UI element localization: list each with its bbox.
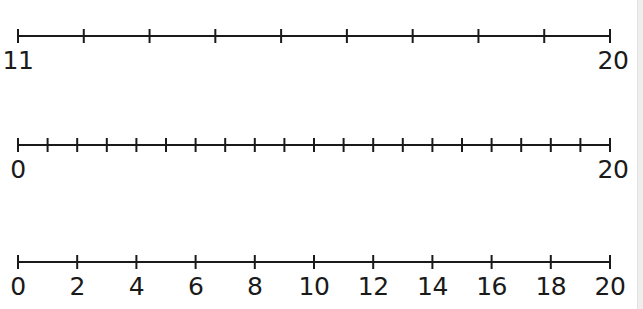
tick-label: 16 — [476, 274, 507, 299]
tick-label: 10 — [299, 274, 330, 299]
tick-label: 6 — [188, 274, 203, 299]
tick-label: 12 — [358, 274, 389, 299]
tick-label: 4 — [129, 274, 144, 299]
number-line-0-to-20-twos: 02468101214161820 — [0, 0, 643, 309]
tick-label: 2 — [69, 274, 84, 299]
tick-label: 18 — [535, 274, 566, 299]
tick-label: 14 — [417, 274, 448, 299]
number-line-graphic — [0, 0, 643, 309]
tick-label: 20 — [595, 274, 626, 299]
tick-label: 8 — [247, 274, 262, 299]
tick-label: 0 — [10, 274, 25, 299]
